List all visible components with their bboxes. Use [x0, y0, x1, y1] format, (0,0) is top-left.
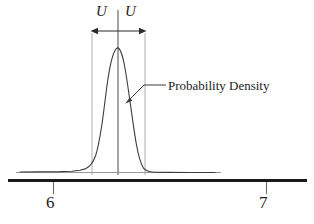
- axis-tick-label-7: 7: [259, 194, 268, 211]
- probability-density-label: Probability Density: [168, 79, 269, 92]
- uncertainty-left-label: U: [96, 4, 107, 19]
- probability-density-figure: U U Probability Density 6 7: [0, 0, 314, 224]
- probability-density-callout-leader: [125, 85, 166, 104]
- axis-tick-label-6: 6: [46, 194, 55, 211]
- uncertainty-right-label: U: [125, 4, 136, 19]
- figure-canvas: [0, 0, 314, 224]
